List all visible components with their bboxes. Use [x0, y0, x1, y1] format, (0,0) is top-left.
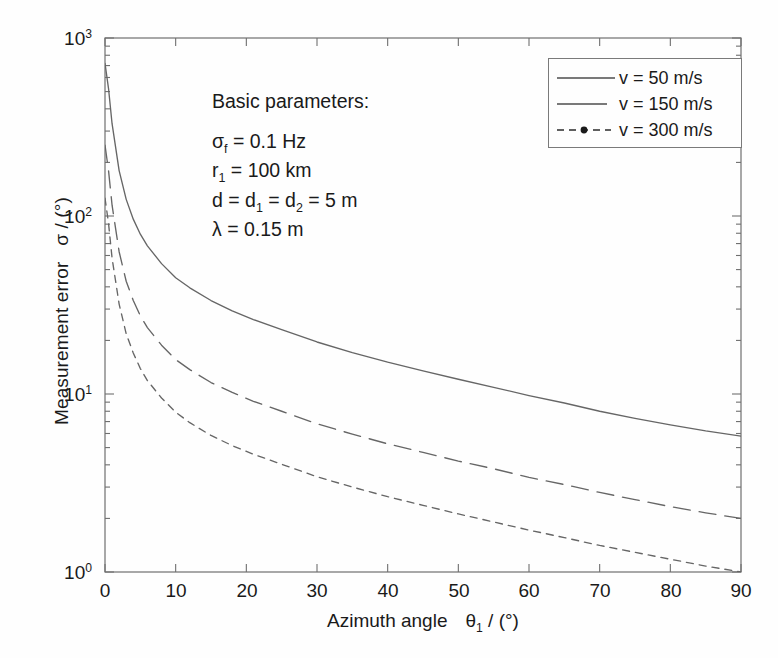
legend-entry-v300: v = 300 m/s — [549, 117, 741, 143]
legend-dot-marker — [581, 127, 588, 134]
legend-line-sample-short-dash-dot — [555, 123, 617, 137]
ytick-label-1: 100 — [36, 562, 92, 584]
xtick-label-60: 60 — [509, 580, 549, 602]
legend-entry-v50: v = 50 m/s — [549, 65, 741, 91]
annotation-heading: Basic parameters: — [212, 92, 369, 112]
legend-line-sample-long-dash — [555, 97, 617, 111]
chart-legend: v = 50 m/s v = 150 m/s v = 300 m/s — [548, 58, 742, 148]
basic-parameters-annotation: Basic parameters: σf = 0.1 Hz r1 = 100 k… — [212, 92, 369, 250]
xtick-label-0: 0 — [85, 580, 125, 602]
legend-line-sample-solid — [555, 71, 617, 85]
curve-v-300-m-s — [105, 198, 741, 572]
legend-label-v300: v = 300 m/s — [617, 120, 713, 141]
ytick-label-1000: 103 — [36, 28, 92, 50]
xtick-label-90: 90 — [721, 580, 761, 602]
xtick-label-40: 40 — [368, 580, 408, 602]
legend-label-v50: v = 50 m/s — [617, 68, 703, 89]
annotation-line-d: d = d1 = d2 = 5 m — [212, 191, 369, 211]
x-axis-label: Azimuth angleθ1 / (°) — [105, 610, 741, 632]
xtick-label-30: 30 — [297, 580, 337, 602]
xtick-label-50: 50 — [439, 580, 479, 602]
xtick-label-70: 70 — [580, 580, 620, 602]
xtick-label-80: 80 — [651, 580, 691, 602]
legend-label-v150: v = 150 m/s — [617, 94, 713, 115]
legend-entry-v150: v = 150 m/s — [549, 91, 741, 117]
xtick-label-10: 10 — [156, 580, 196, 602]
curve-v-150-m-s — [105, 145, 741, 518]
annotation-line-sigma-f: σf = 0.1 Hz — [212, 132, 369, 152]
annotation-line-lambda: λ = 0.15 m — [212, 220, 369, 240]
xtick-label-20: 20 — [227, 580, 267, 602]
y-axis-label: Measurement errorσ / (°) — [51, 131, 73, 491]
annotation-line-r1: r1 = 100 km — [212, 161, 369, 181]
figure-canvas: 103 102 101 100 0 10 20 30 40 50 60 70 8… — [0, 0, 778, 658]
